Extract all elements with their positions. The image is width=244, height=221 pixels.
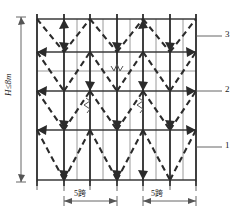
callout-label-2: 2	[225, 85, 230, 94]
arrowhead-icon	[112, 42, 122, 52]
arrowhead-icon	[143, 198, 151, 204]
arrowhead-icon	[188, 198, 196, 204]
brace-diagonal	[37, 91, 64, 130]
brace-diagonal	[37, 130, 64, 180]
figure-container: H≤8m 5跨 5跨 1 2 3	[0, 0, 244, 221]
scaffolding-diagram	[0, 0, 244, 221]
arrowhead-icon	[59, 42, 69, 52]
brace-diagonal	[37, 19, 64, 52]
arrowhead-icon	[138, 81, 148, 91]
height-dimension-group	[16, 17, 26, 182]
callout-leaders-group	[196, 36, 222, 147]
callout-label-1: 1	[225, 141, 230, 150]
arrowhead-icon	[165, 42, 175, 52]
span-label-left: 5跨	[74, 190, 86, 198]
arrowhead-icon	[59, 19, 69, 29]
arrowhead-icon	[138, 170, 148, 180]
arrowhead-icon	[109, 198, 117, 204]
standard-posts-group	[37, 14, 196, 186]
arrowhead-icon	[18, 17, 25, 25]
height-dimension-label: H≤8m	[4, 74, 13, 96]
arrowhead-icon	[18, 174, 25, 182]
span-label-right: 5跨	[151, 190, 163, 198]
callout-label-3: 3	[225, 30, 230, 39]
arrowhead-icon	[85, 81, 95, 91]
arrowhead-icon	[64, 198, 72, 204]
